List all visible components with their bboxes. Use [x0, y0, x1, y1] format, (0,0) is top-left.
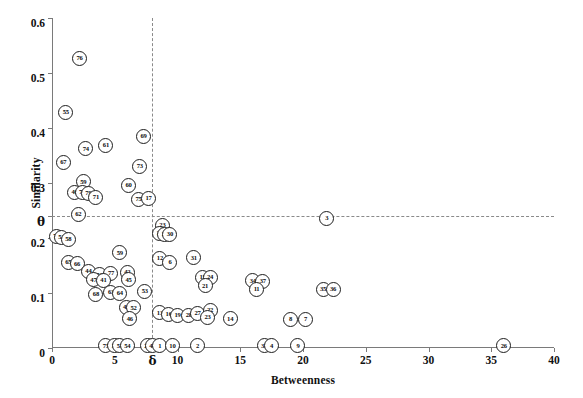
x-tick-label: 20 [297, 355, 309, 367]
x-tick-mark [52, 348, 53, 352]
y-tick-mark [48, 128, 52, 129]
x-tick-mark [429, 348, 430, 352]
data-point: 68 [88, 287, 103, 302]
data-point: 26 [496, 338, 511, 353]
data-point: 36 [326, 282, 341, 297]
y-tick-label: 0.1 [31, 293, 45, 305]
data-point: 3 [319, 211, 334, 226]
data-point: 14 [223, 311, 238, 326]
x-tick-label: 30 [423, 355, 435, 367]
x-tick-label: δ [148, 355, 156, 367]
data-point: 30 [162, 227, 177, 242]
data-point: 21 [198, 278, 213, 293]
data-point: 67 [56, 155, 71, 170]
data-point: 53 [137, 284, 152, 299]
x-tick-mark [554, 348, 555, 352]
y-tick-label: θ [37, 216, 45, 228]
data-point: 73 [132, 159, 147, 174]
y-tick-label: 0 [39, 348, 45, 360]
x-tick-label: 40 [548, 355, 560, 367]
data-point: 54 [120, 338, 135, 353]
data-point: 64 [112, 286, 127, 301]
data-point: 45 [121, 272, 136, 287]
y-tick-mark [48, 18, 52, 19]
y-tick-label: 0.5 [31, 73, 45, 85]
data-point: 31 [186, 250, 201, 265]
data-point: 55 [58, 105, 73, 120]
x-tick-mark [366, 348, 367, 352]
plot-area: 05δ10152025303540 00.10.2θ0.30.40.50.6 7… [52, 18, 554, 348]
y-axis-line [52, 18, 53, 348]
data-point: 74 [78, 141, 93, 156]
data-point: 59 [112, 245, 127, 260]
data-point: 46 [122, 311, 137, 326]
y-axis-title: Similarity [30, 157, 42, 208]
data-point: 17 [141, 191, 156, 206]
data-point: 61 [98, 138, 113, 153]
x-tick-mark [240, 348, 241, 352]
y-tick-mark [48, 183, 52, 184]
data-point: 76 [72, 51, 87, 66]
y-tick-mark [48, 293, 52, 294]
data-point: 23 [200, 310, 215, 325]
theta-threshold-line [52, 216, 554, 217]
y-tick-mark [48, 73, 52, 74]
x-tick-label: 10 [172, 355, 184, 367]
data-point: 71 [88, 190, 103, 205]
y-tick-label: 0.2 [31, 238, 45, 250]
data-point: 58 [61, 232, 76, 247]
delta-threshold-line [152, 18, 153, 348]
x-tick-mark [491, 348, 492, 352]
data-point: 4 [264, 338, 279, 353]
x-tick-label: 0 [49, 355, 55, 367]
data-point: 6 [162, 255, 177, 270]
x-axis-title: Betweenness [271, 374, 335, 386]
x-tick-label: 15 [235, 355, 247, 367]
data-point: 62 [71, 207, 86, 222]
x-tick-label: 5 [112, 355, 118, 367]
x-tick-label: 25 [360, 355, 372, 367]
y-tick-mark [48, 216, 52, 217]
data-point: 69 [136, 129, 151, 144]
x-tick-label: 35 [486, 355, 498, 367]
y-tick-mark [48, 348, 52, 349]
data-point: 11 [249, 282, 264, 297]
data-point: 60 [121, 178, 136, 193]
y-tick-label: 0.4 [31, 128, 45, 140]
y-tick-label: 0.6 [31, 18, 45, 30]
data-point: 2 [190, 338, 205, 353]
data-point: 7 [298, 312, 313, 327]
scatter-chart: 05δ10152025303540 00.10.2θ0.30.40.50.6 7… [0, 0, 583, 398]
data-point: 8 [283, 312, 298, 327]
